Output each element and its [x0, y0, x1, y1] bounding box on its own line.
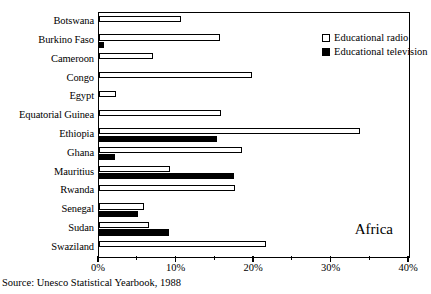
legend-label: Educational television	[334, 46, 428, 57]
y-tick-label-mauritius: Mauritius	[0, 166, 94, 177]
y-tick-label-cameroon: Cameroon	[0, 53, 94, 64]
bar-tv-burkino-faso	[99, 42, 104, 48]
bar-radio-equatorial-guinea	[99, 110, 221, 116]
y-tick-label-sudan: Sudan	[0, 222, 94, 233]
bar-tv-mauritius	[99, 173, 234, 179]
legend-swatch-radio-icon	[322, 34, 330, 42]
y-tick-label-ghana: Ghana	[0, 147, 94, 158]
x-tick-label-20pct: 20%	[243, 262, 262, 274]
x-axis: 0%10%20%30%40%	[98, 256, 408, 276]
bar-tv-senegal	[99, 211, 138, 217]
bar-radio-egypt	[99, 91, 116, 97]
bar-radio-mauritius	[99, 166, 170, 172]
source-note: Source: Unesco Statistical Yearbook, 198…	[2, 277, 181, 289]
x-tick-minor	[214, 256, 215, 260]
legend-item-tv: Educational television	[322, 45, 428, 58]
x-tick-label-40pct: 40%	[398, 262, 417, 274]
bar-radio-burkino-faso	[99, 34, 220, 40]
x-tick-label-0pct: 0%	[91, 262, 105, 274]
region-annotation: Africa	[355, 221, 393, 237]
y-tick-label-burkino-faso: Burkino Faso	[0, 34, 94, 45]
y-tick-label-senegal: Senegal	[0, 203, 94, 214]
y-tick-label-congo: Congo	[0, 72, 94, 83]
legend-item-radio: Educational radio	[322, 31, 428, 44]
y-tick-label-ethiopia: Ethiopia	[0, 128, 94, 139]
plot-area: Educational radioEducational television …	[98, 12, 410, 258]
chart-legend: Educational radioEducational television	[319, 29, 431, 61]
bar-tv-ghana	[99, 154, 115, 160]
y-tick-label-rwanda: Rwanda	[0, 184, 94, 195]
bar-radio-senegal	[99, 203, 144, 209]
bar-radio-rwanda	[99, 185, 235, 191]
bar-tv-ethiopia	[99, 136, 217, 142]
bar-radio-ghana	[99, 147, 242, 153]
legend-label: Educational radio	[334, 32, 408, 43]
x-tick-minor	[291, 256, 292, 260]
bar-tv-sudan	[99, 229, 169, 235]
y-axis-labels: BotswanaBurkino FasoCameroonCongoEgyptEq…	[0, 12, 94, 256]
legend-swatch-tv-icon	[322, 48, 330, 56]
x-tick-minor	[136, 256, 137, 260]
x-tick-label-30pct: 30%	[321, 262, 340, 274]
x-tick-minor	[369, 256, 370, 260]
bar-radio-botswana	[99, 16, 181, 22]
bar-radio-congo	[99, 72, 252, 78]
bar-radio-sudan	[99, 222, 149, 228]
x-tick-label-10pct: 10%	[166, 262, 185, 274]
bar-radio-cameroon	[99, 53, 153, 59]
y-tick-label-swaziland: Swaziland	[0, 241, 94, 252]
y-tick-label-equatorial-guinea: Equatorial Guinea	[0, 109, 94, 120]
y-tick-label-botswana: Botswana	[0, 15, 94, 26]
bar-radio-ethiopia	[99, 128, 360, 134]
bar-radio-swaziland	[99, 241, 266, 247]
y-tick-label-egypt: Egypt	[0, 90, 94, 101]
